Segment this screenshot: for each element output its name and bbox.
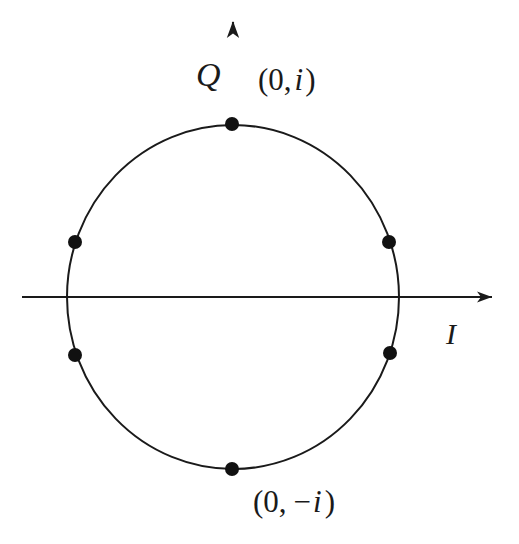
in-phase-axis-label: I [445, 317, 458, 350]
comma: , [284, 62, 292, 97]
imaginary-unit: i [295, 62, 304, 97]
constellation-point[interactable] [68, 348, 82, 362]
label-zero-minus-i: (0,−i) [253, 484, 335, 519]
quadrature-axis-label: Q [196, 56, 221, 93]
constellation-point[interactable] [382, 235, 396, 249]
constellation-point[interactable] [225, 117, 239, 131]
sign: − [294, 484, 311, 519]
label-zero-i: (0,i) [258, 62, 316, 97]
paren-open: ( [258, 62, 268, 97]
constellation-point[interactable] [225, 462, 239, 476]
real-part: 0 [268, 62, 284, 97]
constellation-point[interactable] [383, 346, 397, 360]
paren-close: ) [325, 484, 335, 519]
imaginary-unit: i [313, 484, 322, 519]
constellation-point[interactable] [68, 235, 82, 249]
constellation-diagram-canvas: Q I (0,i) (0,−i) [0, 0, 519, 544]
paren-open: ( [253, 484, 263, 519]
comma: , [279, 484, 287, 519]
real-part: 0 [263, 484, 279, 519]
constellation-figure: Q I (0,i) (0,−i) [0, 0, 519, 544]
quadrature-axis-arrowhead [227, 21, 239, 38]
paren-close: ) [305, 62, 315, 97]
